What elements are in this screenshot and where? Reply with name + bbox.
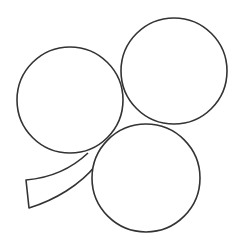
- left-leaf: [17, 47, 123, 153]
- clover-drawing: [0, 0, 245, 246]
- clover-icon: [0, 0, 245, 246]
- top-right-leaf: [121, 18, 227, 124]
- bottom-leaf: [92, 124, 200, 232]
- stem-shape: [26, 153, 96, 208]
